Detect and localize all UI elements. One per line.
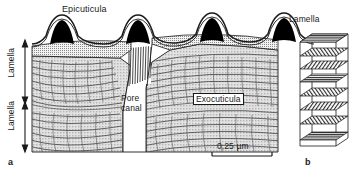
- scale-bar-label: 0,25 µm: [217, 141, 249, 151]
- exocuticula-label: Exocuticula: [193, 93, 244, 105]
- figure-canvas: [0, 0, 359, 175]
- exocuticle-left-block: [26, 56, 131, 152]
- cuticle-figure: Epicuticula Pore canal Exocuticula Lamel…: [0, 0, 359, 175]
- lamella-label-panel-b: Lamella: [289, 14, 319, 24]
- panel-a-caption: a: [8, 157, 13, 167]
- lamella-label-lower: Lamella: [6, 101, 16, 131]
- epicuticula-label: Epicuticula: [62, 4, 107, 14]
- pore-canal-label-line1: Pore: [121, 93, 139, 103]
- panel-b-caption: b: [305, 157, 311, 167]
- pore-canal-label: Pore canal: [121, 93, 142, 113]
- pore-canal-label-line2: canal: [121, 103, 142, 113]
- lamella-label-upper: Lamella: [6, 48, 16, 78]
